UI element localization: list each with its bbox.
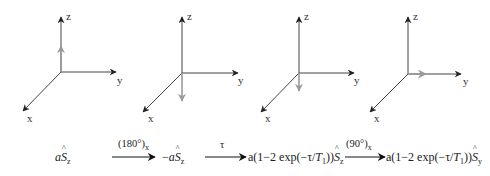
label-90x: (90°)x bbox=[346, 139, 372, 152]
pulse-axis: x bbox=[368, 143, 372, 152]
expr-prefix: a(1−2 exp(−τ/ bbox=[248, 150, 315, 164]
subscript: z bbox=[67, 157, 71, 166]
label-tau: τ bbox=[220, 140, 224, 151]
x-label: x bbox=[374, 112, 380, 124]
subscript: z bbox=[340, 157, 344, 166]
expr-suffix: )) bbox=[464, 150, 472, 164]
z-label: z bbox=[413, 10, 418, 22]
x-axis bbox=[143, 73, 182, 112]
z-label: z bbox=[304, 10, 309, 22]
state-initial: aSz bbox=[55, 151, 71, 166]
operator-s: S bbox=[175, 151, 181, 163]
delay: τ bbox=[220, 139, 224, 150]
y-label: y bbox=[238, 74, 244, 86]
expr-suffix: )) bbox=[326, 150, 334, 164]
expr-prefix: a(1−2 exp(−τ/ bbox=[386, 150, 453, 164]
y-label: y bbox=[463, 75, 469, 87]
frame-4-axes: z y x bbox=[370, 10, 469, 124]
x-axis bbox=[261, 73, 299, 112]
state-relaxed: a(1−2 exp(−τ/T1))Sz bbox=[248, 151, 344, 166]
x-axis bbox=[23, 72, 61, 111]
x-label: x bbox=[148, 112, 154, 124]
state-inverted: −aSz bbox=[162, 151, 184, 166]
label-180x: (180°)x bbox=[118, 139, 149, 152]
z-label: z bbox=[187, 10, 192, 22]
y-label: y bbox=[117, 74, 123, 86]
pulse-angle: (180°) bbox=[118, 138, 145, 149]
subscript: z bbox=[181, 157, 185, 166]
operator-s: S bbox=[334, 151, 340, 163]
subscript: y bbox=[478, 157, 482, 166]
sign: − bbox=[162, 150, 169, 164]
frame-1-axes: z y x bbox=[23, 10, 123, 124]
y-label: y bbox=[354, 74, 360, 86]
x-axis bbox=[370, 74, 408, 112]
x-label: x bbox=[27, 112, 33, 124]
pulse-axis: x bbox=[145, 143, 149, 152]
x-label: x bbox=[265, 112, 271, 124]
pulse-angle: (90°) bbox=[346, 138, 368, 149]
state-final: a(1−2 exp(−τ/T1))Sy bbox=[386, 151, 482, 166]
operator-s: S bbox=[61, 151, 67, 163]
z-label: z bbox=[66, 10, 71, 22]
operator-s: S bbox=[472, 151, 478, 163]
frame-2-axes: z y x bbox=[143, 10, 244, 124]
frame-3-axes: z y x bbox=[261, 10, 360, 124]
